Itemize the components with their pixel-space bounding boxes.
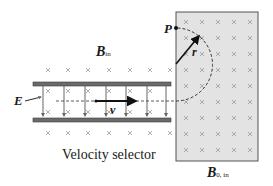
e-field-label: E — [14, 94, 23, 107]
velocity-selector-caption: Velocity selector — [62, 148, 156, 162]
radius-label: r — [192, 46, 197, 58]
e-label-pointer-arrow — [25, 97, 41, 101]
point-p-label: P — [164, 22, 172, 35]
b-in-label: Bin — [96, 45, 111, 59]
bottom-plate — [33, 118, 171, 122]
top-plate — [33, 82, 171, 86]
velocity-label: v — [110, 104, 115, 116]
b0-in-label: B0, in — [207, 166, 229, 180]
point-p — [174, 26, 178, 30]
